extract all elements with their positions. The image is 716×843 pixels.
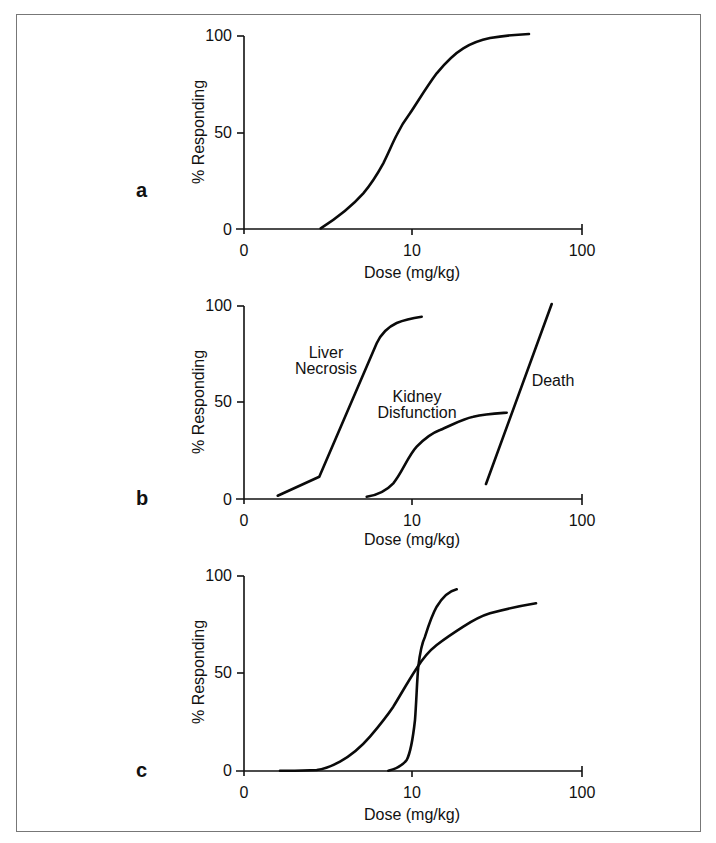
x-tick-label: 0 [240, 512, 249, 529]
y-tick-label: 0 [223, 491, 232, 508]
x-tick-label: 0 [240, 784, 249, 801]
y-tick-label: 100 [205, 27, 232, 44]
death-curve [486, 304, 552, 484]
x-axis-title: Dose (mg/kg) [364, 264, 460, 281]
y-tick-label: 50 [214, 664, 232, 681]
x-tick-label: 100 [569, 784, 596, 801]
dose-response-curve [321, 34, 529, 228]
x-tick-label: 10 [403, 784, 421, 801]
y-tick-label: 100 [205, 297, 232, 314]
x-tick-label: 10 [403, 242, 421, 259]
kidney-disfunction-label-line2: Disfunction [377, 404, 456, 421]
panel-a-axes [236, 36, 582, 235]
kidney-disfunction-label-line1: Kidney [393, 388, 442, 405]
figure-canvas: a 100 50 0 0 10 100 Dose (mg/kg) % Respo… [0, 0, 716, 843]
panel-c: c 100 50 0 0 10 100 Dose (mg/kg) % Respo… [136, 567, 595, 823]
x-tick-label: 100 [569, 242, 596, 259]
panel-label-c: c [136, 759, 147, 781]
x-tick-label: 0 [240, 242, 249, 259]
panel-b: b 100 50 0 0 10 100 Dose (mg/kg) % Respo… [136, 297, 595, 548]
y-axis-title: % Responding [190, 350, 207, 454]
y-tick-label: 0 [223, 762, 232, 779]
y-tick-label: 0 [223, 221, 232, 238]
panel-a: a 100 50 0 0 10 100 Dose (mg/kg) % Respo… [136, 27, 595, 281]
y-axis-title: % Responding [190, 620, 207, 724]
panel-label-a: a [136, 179, 148, 201]
x-axis-title: Dose (mg/kg) [364, 531, 460, 548]
panel-c-axes [236, 576, 582, 777]
y-tick-label: 50 [214, 393, 232, 410]
y-tick-label: 100 [205, 567, 232, 584]
panel-label-b: b [136, 487, 148, 509]
x-axis-title: Dose (mg/kg) [364, 806, 460, 823]
steep-dose-response-curve [388, 589, 456, 770]
x-tick-label: 10 [403, 512, 421, 529]
death-label: Death [532, 372, 575, 389]
x-tick-label: 100 [569, 512, 596, 529]
liver-necrosis-label-line2: Necrosis [295, 360, 357, 377]
liver-necrosis-label-line1: Liver [309, 344, 344, 361]
shallow-dose-response-curve [280, 603, 536, 770]
y-tick-label: 50 [214, 124, 232, 141]
y-axis-title: % Responding [190, 80, 207, 184]
